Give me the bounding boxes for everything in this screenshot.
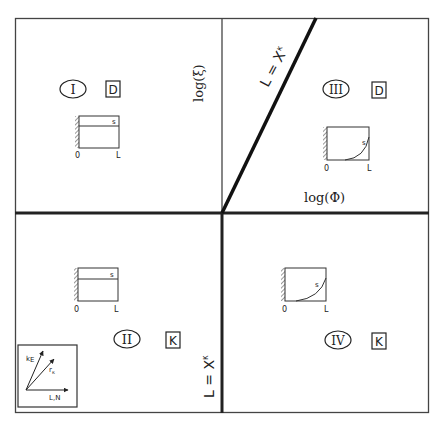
quadrant-I: I D s 0 L — [60, 80, 121, 160]
wall-hatch-icon — [74, 268, 78, 301]
x0-label: 0 — [324, 164, 329, 173]
x1-label: L — [367, 164, 372, 173]
profile-box — [285, 268, 326, 301]
x0-label: 0 — [282, 305, 287, 314]
quadrant-II: II K s 0 L kE rκ L,N — [18, 268, 180, 407]
curved-profile-line — [296, 278, 326, 301]
svg-text:L = Xκ: L = Xκ — [201, 355, 217, 398]
profile-label: s — [110, 271, 114, 279]
regime-numeral: II — [122, 332, 132, 347]
regime-type: K — [169, 334, 178, 348]
x1-label: L — [324, 305, 329, 314]
phase-diagram: log(ξ) log(Φ) L = Xκ L = Xκ I D s 0 L II… — [0, 0, 446, 429]
quadrant-IV: IV K s 0 L — [281, 268, 386, 349]
vertical-axis-label: log(ξ) — [191, 64, 206, 102]
x0-label: 0 — [75, 151, 80, 160]
inset-vector-box: kE rκ L,N — [18, 345, 77, 407]
wall-hatch-icon — [323, 127, 327, 160]
vertical-boundary-label: L = Xκ — [201, 355, 217, 398]
profile-label: s — [362, 139, 366, 147]
regime-type: D — [108, 83, 117, 97]
x0-label: 0 — [74, 305, 79, 314]
wall-hatch-icon — [281, 268, 285, 301]
profile-label: s — [112, 118, 116, 126]
arrow-kE-label: kE — [26, 355, 35, 364]
x1-label: L — [116, 151, 121, 160]
x1-label: L — [114, 305, 119, 314]
regime-type: K — [375, 335, 384, 349]
regime-numeral: IV — [331, 334, 345, 348]
profile-label: s — [315, 281, 319, 289]
quadrant-III: III D s 0 L — [323, 80, 386, 173]
regime-numeral: III — [329, 83, 343, 97]
diagonal-boundary — [222, 18, 316, 213]
arrow-r-label: rκ — [49, 366, 55, 375]
wall-hatch-icon — [75, 116, 79, 148]
regime-numeral: I — [70, 82, 75, 97]
regime-type: D — [374, 84, 383, 98]
arrow-L-N-label: L,N — [49, 394, 60, 402]
horizontal-axis-label: log(Φ) — [304, 190, 345, 205]
